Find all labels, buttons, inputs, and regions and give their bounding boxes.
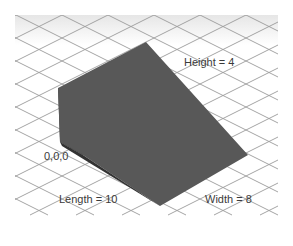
origin-label: 0,0,0 <box>44 150 68 162</box>
horizon-band <box>15 15 278 45</box>
height-label: Height = 4 <box>184 56 234 68</box>
length-label: Length = 10 <box>59 193 117 205</box>
width-label: Width = 8 <box>205 193 252 205</box>
wedge-diagram <box>0 0 293 246</box>
